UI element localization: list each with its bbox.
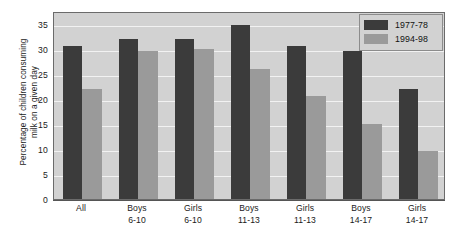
x-axis-tick-girls-11-13: Girls11-13 bbox=[277, 203, 333, 226]
x-axis-tick-boys-6-10: Boys6-10 bbox=[109, 203, 165, 226]
y-axis-tick-labels: 05101520253035 bbox=[28, 0, 48, 250]
bar-boys-6-10-1994-98 bbox=[138, 51, 158, 199]
x-axis-tick-boys-14-17: Boys14-17 bbox=[333, 203, 389, 226]
bar-group-boys-6-10 bbox=[119, 13, 158, 199]
legend: 1977-78 1994-98 bbox=[359, 14, 443, 51]
bar-girls-6-10-1994-98 bbox=[194, 49, 214, 199]
x-axis-tick-boys-11-13: Boys11-13 bbox=[221, 203, 277, 226]
x-axis-tick-line: Girls bbox=[165, 203, 221, 215]
x-axis-tick-line: Girls bbox=[277, 203, 333, 215]
bar-group-all bbox=[63, 13, 102, 199]
x-axis-tick-line: 6-10 bbox=[109, 215, 165, 227]
bar-boys-6-10-1977-78 bbox=[119, 39, 139, 199]
bar-girls-14-17-1994-98 bbox=[418, 151, 438, 199]
bar-group-girls-6-10 bbox=[175, 13, 214, 199]
x-axis-tick-all: All bbox=[53, 203, 109, 215]
bar-girls-11-13-1994-98 bbox=[306, 96, 326, 199]
y-axis-tick-30: 30 bbox=[28, 45, 48, 55]
bar-boys-11-13-1977-78 bbox=[231, 25, 251, 199]
bar-girls-6-10-1977-78 bbox=[175, 39, 195, 199]
bar-group-boys-11-13 bbox=[231, 13, 270, 199]
x-axis-tick-girls-14-17: Girls14-17 bbox=[389, 203, 445, 226]
bar-boys-14-17-1977-78 bbox=[343, 51, 363, 199]
x-axis-tick-labels: AllBoys6-10Girls6-10Boys11-13Girls11-13B… bbox=[53, 203, 445, 243]
x-axis-tick-line: Boys bbox=[221, 203, 277, 215]
bar-all-1977-78 bbox=[63, 46, 83, 199]
legend-label-1977-78: 1977-78 bbox=[395, 20, 428, 30]
y-axis-tick-15: 15 bbox=[28, 120, 48, 130]
x-axis-line bbox=[53, 200, 445, 201]
legend-item-0: 1977-78 bbox=[364, 18, 438, 32]
x-axis-tick-line: All bbox=[53, 203, 109, 215]
legend-swatch-icon-1977-78 bbox=[364, 20, 388, 30]
x-axis-tick-line: 11-13 bbox=[221, 215, 277, 227]
y-axis-tick-0: 0 bbox=[28, 195, 48, 205]
legend-label-1994-98: 1994-98 bbox=[395, 34, 428, 44]
y-axis-tick-10: 10 bbox=[28, 145, 48, 155]
x-axis-tick-line: Boys bbox=[109, 203, 165, 215]
legend-item-1: 1994-98 bbox=[364, 32, 438, 46]
bar-chart-figure: Percentage of children consuming milk on… bbox=[0, 0, 459, 250]
x-axis-tick-girls-6-10: Girls6-10 bbox=[165, 203, 221, 226]
y-axis-tick-25: 25 bbox=[28, 70, 48, 80]
bar-girls-14-17-1977-78 bbox=[399, 89, 419, 199]
bar-all-1994-98 bbox=[82, 89, 102, 199]
legend-swatch-icon-1994-98 bbox=[364, 34, 388, 44]
x-axis-tick-line: 11-13 bbox=[277, 215, 333, 227]
bar-group-girls-11-13 bbox=[287, 13, 326, 199]
bar-boys-14-17-1994-98 bbox=[362, 124, 382, 199]
x-axis-tick-line: 14-17 bbox=[389, 215, 445, 227]
x-axis-tick-line: Boys bbox=[333, 203, 389, 215]
x-axis-tick-line: 6-10 bbox=[165, 215, 221, 227]
bar-girls-11-13-1977-78 bbox=[287, 46, 307, 199]
y-axis-tick-20: 20 bbox=[28, 95, 48, 105]
x-axis-tick-line: 14-17 bbox=[333, 215, 389, 227]
y-axis-tick-35: 35 bbox=[28, 20, 48, 30]
bar-boys-11-13-1994-98 bbox=[250, 69, 270, 199]
y-axis-tick-5: 5 bbox=[28, 170, 48, 180]
x-axis-tick-line: Girls bbox=[389, 203, 445, 215]
